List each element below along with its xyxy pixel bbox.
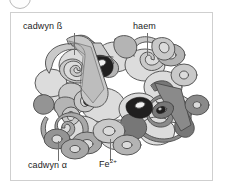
label-haem: haem bbox=[133, 22, 156, 31]
circle-badge-icon bbox=[9, 0, 31, 9]
leader-line-haem bbox=[147, 33, 148, 55]
figure-page: .rb { stroke:#4a4a4a; stroke-width:0.9; … bbox=[0, 0, 225, 192]
leader-line-alpha-chain bbox=[58, 141, 59, 161]
leader-line-beta-chain bbox=[74, 33, 75, 55]
label-alpha-chain: cadwyn α bbox=[28, 161, 67, 170]
haem-group-beta-right bbox=[126, 97, 153, 118]
label-iron-ion-text: Fe bbox=[99, 159, 110, 169]
label-iron-ion-charge: 2+ bbox=[110, 157, 117, 164]
label-beta-chain: cadwyn ß bbox=[23, 22, 62, 31]
label-iron-ion: Fe2+ bbox=[99, 160, 117, 169]
figure-frame: .rb { stroke:#4a4a4a; stroke-width:0.9; … bbox=[10, 12, 213, 181]
haemoglobin-diagram: .rb { stroke:#4a4a4a; stroke-width:0.9; … bbox=[11, 13, 213, 181]
